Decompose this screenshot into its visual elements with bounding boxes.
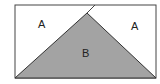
label-a-right: A <box>131 20 139 32</box>
area-diagram: A A B <box>0 0 160 84</box>
label-a-left: A <box>38 18 46 30</box>
label-b: B <box>82 47 89 59</box>
